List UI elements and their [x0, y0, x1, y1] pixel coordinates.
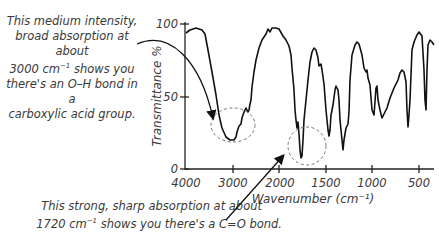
y-tick-50: 50 [163, 90, 178, 104]
spectrum-line [186, 28, 434, 158]
x-tick-3000: 3000 [218, 176, 247, 190]
x-tick-2000: 2000 [265, 176, 294, 190]
ir-spectrum-chart: 100 50 0 Transmittance % 4000 3000 2000 … [0, 0, 439, 233]
x-axis: 4000 3000 2000 1500 1000 500 Wavenumber … [171, 165, 434, 206]
x-axis-title: Wavenumber (cm⁻¹) [252, 192, 375, 206]
y-axis-title: Transmittance % [150, 45, 164, 146]
highlight-circle-co [288, 127, 326, 165]
x-tick-1500: 1500 [311, 176, 340, 190]
highlight-circle-oh [211, 108, 255, 142]
y-tick-100: 100 [156, 17, 178, 31]
arrow-oh [137, 41, 213, 118]
x-tick-500: 500 [408, 176, 430, 190]
x-tick-4000: 4000 [171, 176, 200, 190]
y-tick-0: 0 [171, 162, 178, 176]
x-tick-1000: 1000 [357, 176, 386, 190]
